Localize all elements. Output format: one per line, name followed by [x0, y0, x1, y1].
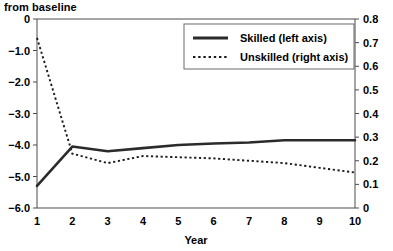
- right-tick-label: 0.8: [363, 13, 378, 25]
- x-tick-label: 9: [317, 215, 323, 227]
- x-tick-label: 4: [140, 215, 147, 227]
- x-tick-label: 7: [246, 215, 252, 227]
- chart-figure: from baseline 0−1.0−2.0−3.0−4.0−5.0−6.0 …: [0, 0, 393, 251]
- right-tick-label: 0.4: [363, 108, 379, 120]
- left-tick-label: −3.0: [8, 108, 30, 120]
- right-tick-label: 0: [363, 202, 369, 214]
- line-chart-plot: 0−1.0−2.0−3.0−4.0−5.0−6.0 0.80.70.60.50.…: [0, 0, 393, 251]
- left-tick-label: −5.0: [8, 171, 30, 183]
- right-axis-ticks: 0.80.70.60.50.40.30.20.10: [355, 13, 379, 214]
- x-tick-label: 2: [69, 215, 75, 227]
- right-tick-label: 0.3: [363, 131, 378, 143]
- left-axis-ticks: 0−1.0−2.0−3.0−4.0−5.0−6.0: [8, 13, 37, 214]
- left-tick-label: −6.0: [8, 202, 30, 214]
- x-tick-label: 1: [34, 215, 40, 227]
- left-tick-label: −2.0: [8, 76, 30, 88]
- x-axis-title: Year: [184, 234, 208, 246]
- right-tick-label: 0.6: [363, 60, 378, 72]
- right-tick-label: 0.5: [363, 84, 378, 96]
- series-line-skilled: [37, 140, 355, 186]
- left-tick-label: 0: [24, 13, 30, 25]
- legend-label-skilled: Skilled (left axis): [240, 32, 327, 44]
- legend-label-unskilled: Unskilled (right axis): [240, 51, 349, 63]
- right-tick-label: 0.2: [363, 155, 378, 167]
- x-tick-label: 6: [211, 215, 217, 227]
- right-tick-label: 0.1: [363, 178, 378, 190]
- x-tick-label: 3: [105, 215, 111, 227]
- x-axis-ticks: 12345678910: [34, 215, 361, 227]
- x-tick-label: 10: [349, 215, 361, 227]
- right-tick-label: 0.7: [363, 37, 378, 49]
- left-tick-label: −4.0: [8, 139, 30, 151]
- left-tick-label: −1.0: [8, 45, 30, 57]
- chart-legend: Skilled (left axis) Unskilled (right axi…: [184, 24, 354, 69]
- x-tick-label: 8: [281, 215, 287, 227]
- x-tick-label: 5: [175, 215, 181, 227]
